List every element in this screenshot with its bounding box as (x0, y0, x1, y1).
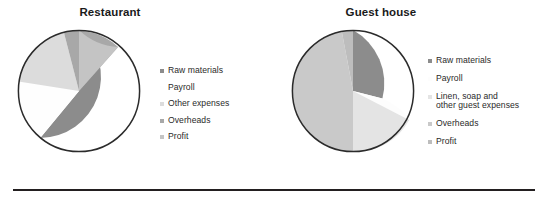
legend-marker-icon (428, 77, 432, 81)
legend-item[interactable]: Linen, soap and other guest expenses (428, 92, 546, 110)
legend-item[interactable]: Raw materials (428, 56, 546, 65)
legend-item-label: Raw materials (168, 66, 223, 75)
chart-panel-guesthouse: Guest house (272, 0, 546, 165)
legend-marker-icon (428, 59, 432, 63)
legend-item[interactable]: Payroll (428, 74, 546, 83)
legend-item[interactable]: Raw materials (160, 66, 268, 75)
chart-title-restaurant: Restaurant (0, 6, 245, 18)
legend-item-label: Raw materials (436, 56, 491, 65)
legend-item[interactable]: Overheads (160, 116, 268, 125)
legend-item[interactable]: Other expenses (160, 99, 268, 108)
pie-slice-overheads (292, 31, 353, 152)
legend-item-label: Payroll (168, 83, 195, 92)
legend-marker-icon (428, 95, 432, 99)
bottom-divider-rule (13, 189, 535, 191)
legend-item-label: Overheads (168, 116, 211, 125)
legend-item-label: Linen, soap and other guest expenses (436, 92, 519, 110)
pie-chart-figure: Restaurant (0, 0, 546, 200)
legend-item[interactable]: Profit (428, 137, 546, 146)
legend-item-label: Profit (436, 137, 456, 146)
legend-item[interactable]: Overheads (428, 119, 546, 128)
legend-guesthouse: Raw materials Payroll Linen, soap and ot… (428, 56, 546, 155)
legend-marker-icon (160, 135, 164, 139)
legend-item-label: Other expenses (168, 99, 229, 108)
pie-slices-restaurant (18, 30, 118, 138)
legend-marker-icon (160, 86, 164, 90)
legend-item[interactable]: Payroll (160, 83, 268, 92)
legend-item[interactable]: Profit (160, 132, 268, 141)
legend-marker-icon (428, 122, 432, 126)
legend-item-label: Overheads (436, 119, 479, 128)
legend-marker-icon (160, 69, 164, 73)
pie-chart-restaurant (17, 29, 141, 153)
legend-restaurant: Raw materials Payroll Other expenses Ove… (160, 66, 268, 149)
chart-panel-restaurant: Restaurant (0, 0, 270, 165)
chart-title-guesthouse: Guest house (244, 6, 518, 18)
legend-marker-icon (428, 140, 432, 144)
legend-marker-icon (160, 119, 164, 123)
pie-slice-raw-materials (353, 30, 384, 99)
pie-chart-guesthouse (291, 29, 415, 153)
legend-marker-icon (160, 102, 164, 106)
legend-item-label: Payroll (436, 74, 463, 83)
legend-item-label: Profit (168, 132, 188, 141)
